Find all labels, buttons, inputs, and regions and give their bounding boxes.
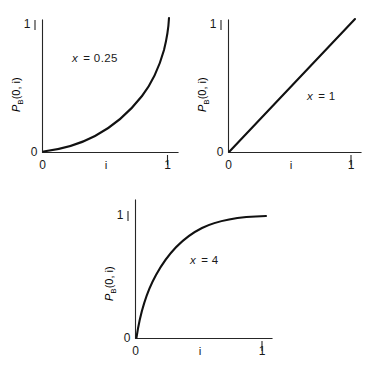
annotation-x-value: x= 0.25 (71, 52, 118, 64)
y-axis-title-tail: (0, i) (196, 77, 208, 99)
y-axis-title: PB(0, i) (10, 77, 25, 112)
plot-panel-x-4: 1 0 0 1 i PB(0, i) x= 4 (90, 186, 285, 376)
annotation-variable: x (306, 90, 314, 102)
x-tick-label-1: 1 (164, 158, 171, 172)
annotation-rest: = 4 (201, 254, 219, 266)
annotation-variable: x (71, 52, 79, 64)
annotation-x-value: x= 1 (306, 90, 336, 102)
y-axis-title: PB(0, i) (196, 77, 211, 112)
annotation-variable: x (189, 254, 197, 266)
annotation-rest: = 1 (318, 90, 336, 102)
x-tick-label-0: 0 (39, 158, 46, 172)
y-tick-label-1: 1 (117, 208, 124, 222)
plot-panel-x-1: 1 0 0 1 i PB(0, i) x= 1 (185, 0, 369, 185)
x-tick-label-0: 0 (132, 344, 139, 358)
x-axis-title: i (199, 345, 202, 357)
plot-panel-x-025: 1 0 0 1 i PB(0, i) x= 0.25 (0, 0, 190, 185)
x-axis-title: i (105, 159, 108, 171)
x-tick-label-1: 1 (259, 344, 266, 358)
x-tick-label-1: 1 (348, 158, 355, 172)
annotation-x-value: x= 4 (189, 254, 219, 266)
y-axis-title-group: PB(0, i) (103, 266, 118, 301)
y-axis-title-group: PB(0, i) (196, 77, 211, 112)
y-tick-label-0: 0 (31, 145, 38, 159)
plot-svg-x-025: 1 0 0 1 i PB(0, i) x= 0.25 (0, 0, 190, 185)
annotation-rest: = 0.25 (83, 52, 118, 64)
curve-x-1 (230, 19, 356, 152)
y-axis-title-tail: (0, i) (10, 77, 22, 99)
x-tick-label-0: 0 (225, 158, 232, 172)
figure-root: 1 0 0 1 i PB(0, i) x= 0.25 (0, 0, 369, 376)
y-tick-label-0: 0 (217, 145, 224, 159)
plot-svg-x-4: 1 0 0 1 i PB(0, i) x= 4 (90, 186, 285, 376)
y-axis-title: PB(0, i) (103, 266, 118, 301)
y-tick-label-1: 1 (24, 17, 31, 31)
curve-x-025 (44, 18, 170, 152)
x-axis-title: i (290, 159, 293, 171)
curve-x-4 (137, 216, 267, 338)
y-axis-title-tail: (0, i) (103, 266, 115, 288)
y-tick-label-1: 1 (210, 17, 217, 31)
y-tick-label-0: 0 (124, 331, 131, 345)
plot-svg-x-1: 1 0 0 1 i PB(0, i) x= 1 (185, 0, 369, 185)
y-axis-title-group: PB(0, i) (10, 77, 25, 112)
